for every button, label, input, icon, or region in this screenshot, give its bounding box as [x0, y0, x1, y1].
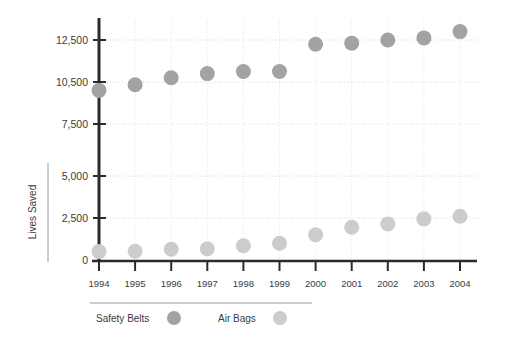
y-axis-tick-label: 5,000 — [62, 170, 88, 182]
x-axis-tick-label: 1997 — [197, 278, 218, 289]
legend-item-label: Air Bags — [218, 313, 256, 324]
data-point-marker — [236, 238, 251, 253]
data-point-marker — [92, 83, 107, 98]
x-axis-tick-label: 2004 — [449, 278, 470, 289]
legend-item-label: Safety Belts — [96, 313, 149, 324]
y-axis-tick-label: 0 — [82, 254, 88, 266]
y-axis-tick-label: 10,500 — [56, 76, 88, 88]
x-axis-tick-label: 2000 — [305, 278, 326, 289]
data-point-marker — [200, 241, 215, 256]
x-axis-tick-label: 1996 — [161, 278, 182, 289]
data-point-marker — [416, 211, 431, 226]
x-axis-tick-label: 2003 — [413, 278, 434, 289]
data-point-marker — [344, 36, 359, 51]
data-point-marker — [236, 64, 251, 79]
data-point-marker — [128, 244, 143, 259]
data-point-marker — [453, 209, 468, 224]
x-axis-tick-label: 1994 — [88, 278, 109, 289]
data-point-marker — [308, 227, 323, 242]
chart-container: 02,5005,0007,50010,50012,500 19941995199… — [0, 0, 505, 345]
data-point-marker — [308, 37, 323, 52]
data-point-marker — [164, 70, 179, 85]
y-axis-tick-label: 2,500 — [62, 212, 88, 224]
data-point-marker — [128, 77, 143, 92]
data-point-marker — [344, 220, 359, 235]
data-point-marker — [380, 216, 395, 231]
x-axis-tick-label: 1995 — [125, 278, 146, 289]
x-axis-tick-label: 1998 — [233, 278, 254, 289]
lives-saved-scatter-chart: 02,5005,0007,50010,50012,500 19941995199… — [0, 0, 505, 345]
x-axis-tick-label: 2001 — [341, 278, 362, 289]
data-point-marker — [92, 244, 107, 259]
legend-item-swatch — [273, 311, 287, 325]
data-point-marker — [272, 64, 287, 79]
y-axis-tick-label: 7,500 — [62, 118, 88, 130]
data-point-marker — [272, 236, 287, 251]
legend-item-swatch — [167, 311, 181, 325]
x-axis-tick-label: 2002 — [377, 278, 398, 289]
y-axis-tick-label: 12,500 — [56, 34, 88, 46]
x-axis-tick-label: 1999 — [269, 278, 290, 289]
data-point-marker — [416, 30, 431, 45]
data-point-marker — [164, 242, 179, 257]
y-axis-title: Lives Saved — [27, 185, 38, 239]
data-point-marker — [380, 33, 395, 48]
data-point-marker — [200, 66, 215, 81]
data-point-marker — [453, 24, 468, 39]
